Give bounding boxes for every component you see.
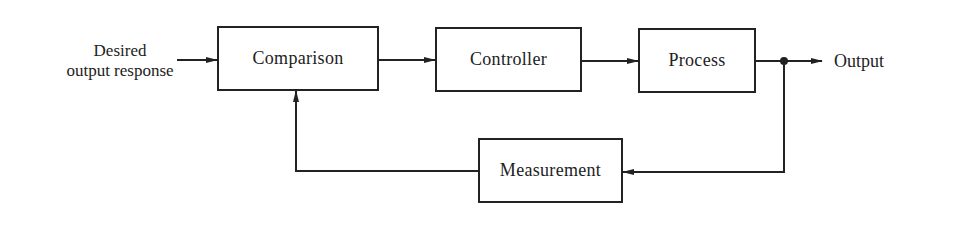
process-label: Process [668, 50, 725, 71]
comparison-block: Comparison [217, 26, 379, 91]
output-label: Output [834, 51, 884, 71]
process-block: Process [638, 28, 756, 93]
junction-dot-icon [780, 57, 788, 65]
input-label-line2: output response [58, 61, 182, 81]
controller-label: Controller [470, 49, 547, 70]
input-label-line1: Desired [58, 41, 182, 61]
measurement-block: Measurement [478, 138, 623, 203]
controller-block: Controller [435, 27, 582, 92]
input-label: Desired output response [58, 41, 182, 81]
comparison-label: Comparison [253, 48, 344, 69]
measurement-to-comparison-arrow [296, 91, 479, 171]
measurement-label: Measurement [500, 160, 601, 181]
